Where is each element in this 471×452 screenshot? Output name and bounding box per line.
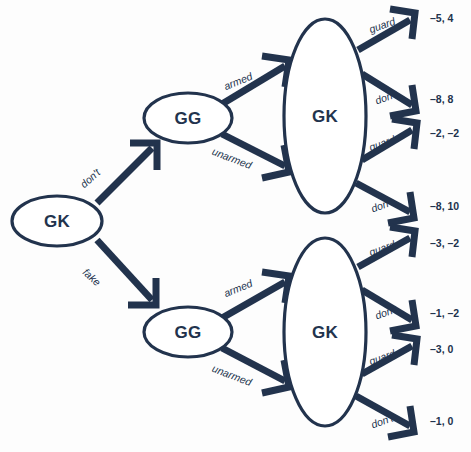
action-label-outcome-6: don't (373, 302, 399, 321)
node-root[interactable]: GK (12, 196, 102, 246)
edge-label-ggbot-armed: armed (222, 276, 255, 299)
payoff-outcome-2: –8, 8 (430, 93, 454, 105)
node-label-gk_bottom: GK (312, 323, 339, 342)
action-label-outcome-2: don't (373, 87, 399, 106)
edge-label-ggbot-unarmed: unarmed (210, 362, 254, 388)
node-label-gg_bottom: GG (174, 323, 201, 342)
node-gk_bottom[interactable]: GK (284, 238, 366, 426)
edge-root-dont-shaft (97, 148, 152, 203)
edge-root-fake (97, 240, 156, 305)
payoff-outcome-5: –3, –2 (430, 237, 459, 249)
game-tree-diagram: GKGGGKGGGK don'tfakearmedunarmedarmeduna… (0, 0, 471, 452)
node-label-root: GK (44, 212, 71, 231)
payoff-outcome-8: –1, 0 (430, 415, 454, 427)
edges-layer (97, 9, 417, 437)
payoff-outcome-4: –8, 10 (430, 200, 459, 212)
payoff-outcome-7: –3, 0 (430, 343, 454, 355)
edge-root-fake-shaft (97, 240, 152, 300)
edge-root-dont (97, 143, 157, 203)
nodes-layer: GKGGGKGGGK (12, 19, 366, 426)
game-tree-canvas: GKGGGKGGGK don'tfakearmedunarmedarmeduna… (0, 0, 471, 452)
edge-label-root-fake: fake (81, 266, 104, 288)
node-gk_top[interactable]: GK (284, 19, 366, 213)
node-label-gg_top: GG (174, 109, 201, 128)
node-label-gk_top: GK (312, 107, 339, 126)
payoff-outcome-6: –1, –2 (430, 307, 459, 319)
edge-label-root-dont: don't (78, 165, 104, 190)
action-label-outcome-4: don't (369, 195, 395, 214)
node-gg_top[interactable]: GG (144, 93, 232, 143)
payoff-outcome-3: –2, –2 (430, 127, 459, 139)
payoff-outcome-1: –5, 4 (430, 12, 454, 24)
node-gg_bottom[interactable]: GG (144, 307, 232, 357)
